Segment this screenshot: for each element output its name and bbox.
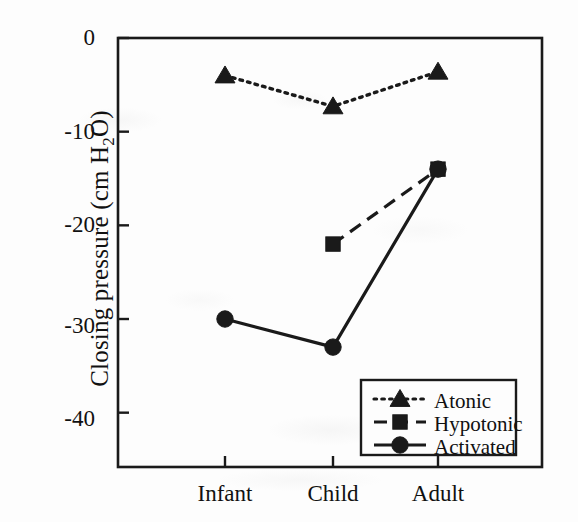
series-marker-activated-1 xyxy=(325,339,341,355)
figure-canvas: Closing pressure (cm H2O) 0 -10 -20 -30 … xyxy=(0,0,578,522)
legend-marker-activated xyxy=(392,437,408,453)
y-tick-label-3: -30 xyxy=(23,313,95,339)
data-series-group xyxy=(215,62,448,355)
series-marker-activated-2 xyxy=(430,161,446,177)
y-axis-title-subscript: 2 xyxy=(99,137,118,146)
y-tick-label-1: -10 xyxy=(23,119,95,145)
legend-label-atonic: Atonic xyxy=(434,389,491,414)
y-tick-label-4: -40 xyxy=(23,406,95,432)
y-tick-label-0: 0 xyxy=(23,25,95,51)
series-marker-atonic-0 xyxy=(215,66,235,83)
legend-label-hypotonic: Hypotonic xyxy=(434,412,523,437)
x-tick-label-infant: Infant xyxy=(198,481,253,507)
x-tick-label-adult: Adult xyxy=(412,481,464,507)
legend-label-activated: Activated xyxy=(434,435,516,460)
x-tick-label-child: Child xyxy=(307,481,358,507)
y-axis-title: Closing pressure (cm H2O) xyxy=(86,29,119,469)
y-tick-label-2: -20 xyxy=(23,212,95,238)
series-marker-hypotonic-0 xyxy=(326,237,340,251)
series-line-hypotonic xyxy=(333,169,438,244)
series-line-activated xyxy=(225,169,438,347)
series-marker-atonic-2 xyxy=(428,62,448,79)
y-axis-title-text: Closing pressure (cm H xyxy=(86,146,113,387)
series-marker-activated-0 xyxy=(217,311,233,327)
legend-marker-hypotonic xyxy=(393,415,407,429)
